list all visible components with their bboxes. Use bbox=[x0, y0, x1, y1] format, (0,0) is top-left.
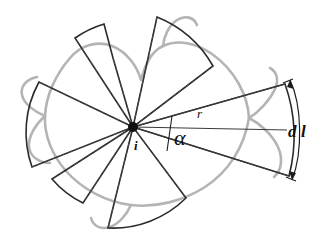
label-dl-d: d bbox=[288, 122, 297, 141]
label-center-i: i bbox=[134, 138, 138, 153]
dl-extension-bottom bbox=[286, 177, 296, 181]
sector-decomposition-diagram: α r i d l bbox=[0, 0, 322, 244]
label-alpha: α bbox=[174, 125, 186, 150]
label-dl-l: l bbox=[301, 122, 306, 141]
figure-root: α r i d l bbox=[0, 0, 322, 244]
center-point-i bbox=[128, 122, 138, 132]
sector-outlines-group bbox=[26, 17, 294, 228]
